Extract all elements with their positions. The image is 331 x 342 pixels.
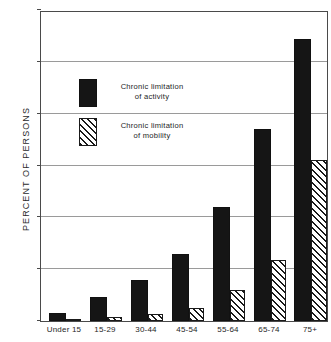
bar-chart: PERCENT OF PERSONS (0, 0, 331, 342)
xtick-label-15-29: 15-29 (94, 325, 115, 334)
ytick-mark-0 (37, 320, 41, 321)
ytick-mark-40 (37, 113, 41, 114)
legend-label-activity-line2: of activity (135, 92, 169, 101)
bar-activity-45-54 (172, 254, 189, 321)
bar-mobility-under-15 (66, 319, 81, 321)
legend-label-mobility: Chronic limitation of mobility (105, 121, 199, 141)
bar-group-75-plus (293, 12, 328, 321)
bar-mobility-45-54 (189, 308, 204, 321)
ytick-mark-60 (37, 9, 41, 10)
bar-group-65-74 (252, 12, 287, 321)
bar-group-15-29 (88, 12, 123, 321)
legend-item-mobility: Chronic limitation of mobility (79, 118, 209, 148)
ytick-mark-10 (37, 268, 41, 269)
bar-activity-55-64 (213, 207, 230, 321)
xtick-label-under-15: Under 15 (47, 325, 82, 334)
legend-swatch-mobility (79, 118, 97, 146)
xtick-label-45-54: 45-54 (176, 325, 197, 334)
y-axis-title: PERCENT OF PERSONS (21, 89, 31, 249)
bar-mobility-65-74 (271, 260, 286, 321)
bar-mobility-55-64 (230, 290, 245, 321)
ytick-mark-50 (37, 61, 41, 62)
legend-label-mobility-line1: Chronic limitation (121, 121, 184, 130)
bar-activity-15-29 (90, 297, 107, 321)
legend-label-activity-line1: Chronic limitation (121, 82, 184, 91)
bar-activity-30-44 (131, 280, 148, 322)
bar-group-30-44 (129, 12, 164, 321)
xtick-label-65-74: 65-74 (258, 325, 279, 334)
legend-swatch-activity (79, 79, 97, 107)
bar-mobility-75-plus (311, 160, 327, 321)
ytick-mark-30 (37, 165, 41, 166)
xtick-label-75-plus: 75+ (303, 325, 317, 334)
legend-label-mobility-line2: of mobility (134, 131, 171, 140)
legend: Chronic limitation of activity Chronic l… (79, 79, 209, 157)
bar-activity-75-plus (294, 39, 311, 322)
plot-area: Chronic limitation of activity Chronic l… (40, 11, 328, 322)
bar-activity-under-15 (49, 313, 66, 321)
bar-mobility-30-44 (148, 314, 163, 321)
xtick-label-55-64: 55-64 (217, 325, 238, 334)
bar-group-55-64 (211, 12, 246, 321)
bar-group-under-15 (47, 12, 82, 321)
ytick-mark-20 (37, 216, 41, 217)
xtick-label-30-44: 30-44 (135, 325, 156, 334)
bar-group-45-54 (170, 12, 205, 321)
bar-mobility-15-29 (107, 317, 122, 321)
legend-label-activity: Chronic limitation of activity (105, 82, 199, 102)
legend-item-activity: Chronic limitation of activity (79, 79, 209, 109)
bar-activity-65-74 (254, 129, 271, 321)
